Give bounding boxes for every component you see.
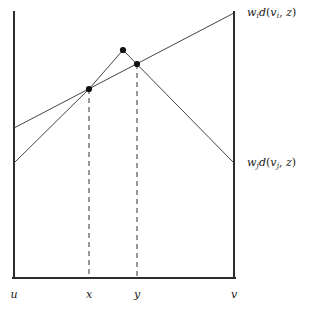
lower-vertex-symbol: v (270, 156, 276, 169)
intersection-at-x-dot (86, 86, 92, 92)
upper-close-paren: ) (292, 6, 296, 19)
upper-vertex-symbol: v (270, 6, 276, 19)
upper-curve-label: wid(vi, z) (247, 7, 296, 20)
peak-vertex-dot (120, 47, 126, 53)
lower-distance-symbol: d (259, 156, 266, 169)
upper-distance-symbol: d (259, 6, 266, 19)
dashed-verticals-group (89, 64, 137, 278)
lower-curve-line (14, 50, 234, 163)
axis-tick-label-u: u (6, 289, 22, 300)
axis-tick-label-v: v (226, 289, 242, 300)
lower-weight-symbol: w (247, 156, 256, 169)
upper-weight-symbol: w (247, 6, 256, 19)
axis-tick-label-y: y (129, 289, 145, 300)
axis-tick-label-x: x (81, 289, 97, 300)
intersection-at-y-dot (134, 61, 140, 67)
lower-close-paren: ) (292, 156, 296, 169)
lower-comma: , (279, 156, 286, 169)
plot-figure: wid(vi, z) wjd(vj, z) u x y v (0, 0, 309, 311)
lower-curve-label: wjd(vj, z) (247, 157, 296, 170)
upper-curve-line (14, 13, 234, 128)
markers-group (86, 47, 140, 92)
series-group (14, 13, 234, 163)
